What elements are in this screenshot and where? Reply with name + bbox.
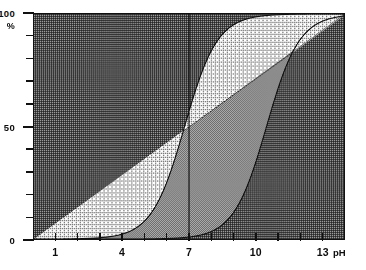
y-axis-tick-label-0: 0 bbox=[0, 236, 15, 246]
x-axis-tick-10 bbox=[255, 233, 257, 241]
plot-canvas bbox=[34, 14, 344, 239]
chart-figure: 100 % 50 0 1 4 7 10 13 pH bbox=[0, 0, 366, 270]
y-axis-tick-label-50: 50 bbox=[0, 123, 15, 133]
y-axis-tick-70 bbox=[26, 80, 34, 82]
y-axis-tick-10 bbox=[26, 217, 34, 219]
x-axis-tick-7 bbox=[188, 233, 190, 241]
x-axis-tick-8 bbox=[211, 233, 213, 241]
y-axis-tick-40 bbox=[26, 148, 34, 150]
y-axis-tick-30 bbox=[26, 171, 34, 173]
x-axis-tick-1 bbox=[55, 233, 57, 241]
y-axis-tick-80 bbox=[26, 58, 34, 60]
x-axis-tick-label-4: 4 bbox=[107, 247, 137, 258]
y-axis-tick-50 bbox=[23, 126, 34, 128]
x-axis-tick-12 bbox=[300, 233, 302, 241]
y-axis-tick-100 bbox=[23, 12, 34, 14]
x-axis-tick-11 bbox=[277, 233, 279, 241]
x-axis-tick-label-1: 1 bbox=[40, 247, 70, 258]
x-axis-tick-9 bbox=[233, 233, 235, 241]
x-axis-tick-13 bbox=[322, 233, 324, 241]
x-axis-tick-label-7: 7 bbox=[174, 247, 204, 258]
y-axis-tick-90 bbox=[26, 35, 34, 37]
y-axis-tick-0 bbox=[23, 239, 34, 241]
x-axis-tick-3 bbox=[99, 233, 101, 241]
y-axis-tick-60 bbox=[26, 103, 34, 105]
y-axis-unit-label: % bbox=[0, 22, 15, 31]
x-axis-tick-5 bbox=[144, 233, 146, 241]
plot-area bbox=[33, 13, 345, 240]
x-axis-tick-label-10: 10 bbox=[241, 247, 271, 258]
y-axis-tick-label-100: 100 bbox=[0, 9, 15, 19]
x-axis-unit-label: pH bbox=[333, 248, 346, 258]
x-axis-tick-6 bbox=[166, 233, 168, 241]
x-axis-tick-2 bbox=[77, 233, 79, 241]
y-axis-tick-20 bbox=[26, 194, 34, 196]
x-axis-tick-4 bbox=[121, 233, 123, 241]
